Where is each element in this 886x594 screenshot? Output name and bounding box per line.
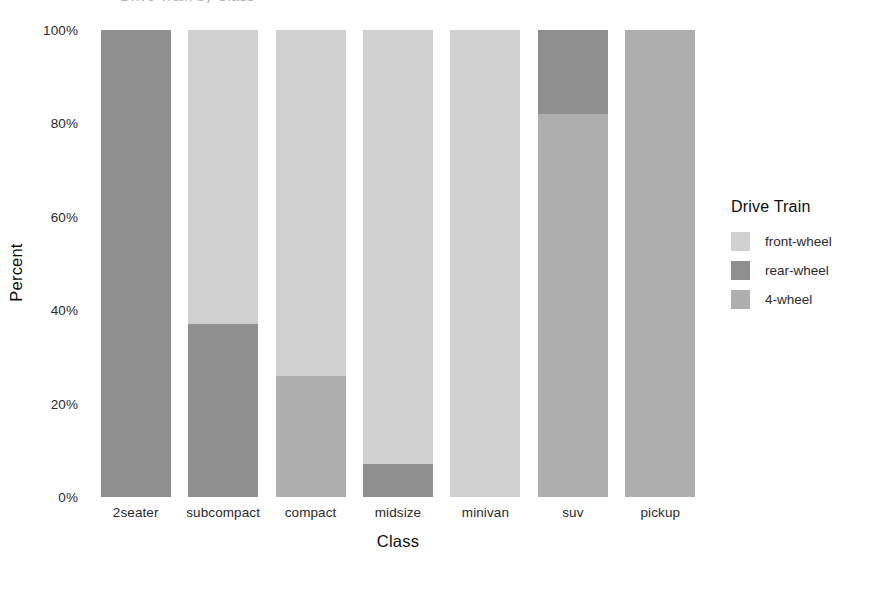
bar-segment-pickup-4-wheel[interactable] xyxy=(625,30,695,497)
x-tick-label: minivan xyxy=(462,505,509,520)
bar-segment-midsize-rear-wheel[interactable] xyxy=(363,464,433,497)
legend-item-rear-wheel[interactable]: rear-wheel xyxy=(731,257,881,284)
y-axis: Percent 100%80%60%40%20%0% xyxy=(0,30,86,497)
legend-label: front-wheel xyxy=(765,234,832,249)
x-tick-label: compact xyxy=(285,505,337,520)
y-axis-title: Percent xyxy=(7,213,26,333)
y-tick-label: 0% xyxy=(58,490,78,505)
y-tick-label: 100% xyxy=(43,23,78,38)
legend-item-4-wheel[interactable]: 4-wheel xyxy=(731,286,881,313)
bar-pickup[interactable] xyxy=(625,30,695,497)
x-tick-label: 2seater xyxy=(113,505,159,520)
bar-subcompact[interactable] xyxy=(188,30,258,497)
x-tick-label: midsize xyxy=(375,505,421,520)
bar-compact[interactable] xyxy=(276,30,346,497)
y-tick-label: 20% xyxy=(51,396,78,411)
bar-segment-compact-4-wheel[interactable] xyxy=(276,376,346,497)
y-tick-label: 80% xyxy=(51,116,78,131)
bar-midsize[interactable] xyxy=(363,30,433,497)
legend-swatch-front-wheel xyxy=(731,232,750,251)
plot-area xyxy=(92,30,704,497)
x-tick-label: suv xyxy=(562,505,583,520)
x-tick-label: pickup xyxy=(640,505,680,520)
legend-label: 4-wheel xyxy=(765,292,812,307)
bar-segment-midsize-front-wheel[interactable] xyxy=(363,30,433,464)
bar-segment-suv-4-wheel[interactable] xyxy=(538,114,608,497)
bar-minivan[interactable] xyxy=(450,30,520,497)
bar-segment-subcompact-rear-wheel[interactable] xyxy=(188,324,258,497)
legend-label: rear-wheel xyxy=(765,263,829,278)
x-axis: 2seatersubcompactcompactmidsizeminivansu… xyxy=(92,497,704,557)
legend-swatch-4-wheel xyxy=(731,290,750,309)
chart-root: Drive Train by Class Percent 100%80%60%4… xyxy=(0,0,886,594)
y-tick-label: 40% xyxy=(51,303,78,318)
legend: Drive Train front-wheelrear-wheel4-wheel xyxy=(731,198,881,315)
legend-swatch-rear-wheel xyxy=(731,261,750,280)
bar-2seater[interactable] xyxy=(101,30,171,497)
bar-segment-subcompact-front-wheel[interactable] xyxy=(188,30,258,324)
legend-item-front-wheel[interactable]: front-wheel xyxy=(731,228,881,255)
legend-title: Drive Train xyxy=(731,198,881,216)
y-tick-label: 60% xyxy=(51,209,78,224)
chart-title: Drive Train by Class xyxy=(120,0,540,3)
legend-items: front-wheelrear-wheel4-wheel xyxy=(731,228,881,313)
bar-suv[interactable] xyxy=(538,30,608,497)
bar-segment-minivan-front-wheel[interactable] xyxy=(450,30,520,497)
x-axis-title: Class xyxy=(92,532,704,551)
bar-segment-suv-rear-wheel[interactable] xyxy=(538,30,608,114)
x-tick-label: subcompact xyxy=(186,505,260,520)
bar-segment-2seater-rear-wheel[interactable] xyxy=(101,30,171,497)
bar-segment-compact-front-wheel[interactable] xyxy=(276,30,346,376)
